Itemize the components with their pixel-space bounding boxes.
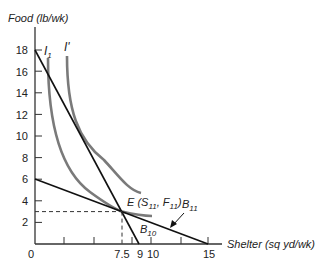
y-tick-label: 4 <box>22 195 28 207</box>
x-tick-label: 9 <box>137 248 143 260</box>
indifference-curve-iprime <box>67 56 141 193</box>
y-tick-label: 8 <box>22 152 28 164</box>
y-tick-label: 2 <box>22 216 28 228</box>
budget-line-b10 <box>35 50 139 244</box>
y-tick-labels: 2 4 6 8 10 12 14 16 18 <box>16 44 28 228</box>
y-tick-label: 18 <box>16 44 28 56</box>
i1-label: I1 <box>44 44 52 60</box>
b11-arrow-icon <box>170 213 184 228</box>
b10-label: B10 <box>140 223 157 238</box>
y-tick-label: 14 <box>16 87 28 99</box>
x-tick-label: 15 <box>203 248 215 260</box>
y-tick-label: 10 <box>16 130 28 142</box>
iprime-label: I' <box>64 40 70 54</box>
x-tick-label: 10 <box>147 248 159 260</box>
x-tick-label: 7.5 <box>114 248 129 260</box>
diagram-canvas: 2 4 6 8 10 12 14 16 18 0 7.5 9 10 15 Foo… <box>0 0 317 263</box>
b11-label: B11 <box>182 198 198 213</box>
y-ticks <box>35 50 42 222</box>
y-tick-label: 16 <box>16 66 28 78</box>
origin-label: 0 <box>28 248 34 260</box>
y-tick-label: 12 <box>16 109 28 121</box>
x-axis-title: Shelter (sq yd/wk) <box>227 238 315 250</box>
equilibrium-label: E (S11, F11) <box>127 196 182 211</box>
y-tick-label: 6 <box>22 173 28 185</box>
x-tick-labels: 0 7.5 9 10 15 <box>28 248 215 260</box>
y-axis-title: Food (lb/wk) <box>8 12 69 24</box>
